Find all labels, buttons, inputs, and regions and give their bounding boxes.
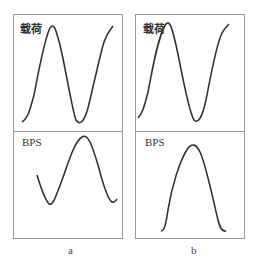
panel-b-load-curve: [138, 23, 229, 121]
panel-b-bps-curve: [161, 145, 226, 231]
waveform-curves: [0, 0, 257, 260]
panel-a-bps-curve: [37, 136, 117, 204]
panel-a-load-curve: [22, 26, 113, 123]
